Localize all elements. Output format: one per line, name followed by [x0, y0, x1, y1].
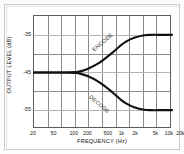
x-tick-label: 5k	[153, 130, 158, 136]
x-tick-label: 1k	[119, 130, 124, 136]
x-tick-label: 2k	[132, 130, 137, 136]
x-tick-label: 20	[30, 130, 36, 136]
x-tick-label: 100	[69, 130, 78, 136]
y-axis-ticks: -35 -45 -55	[14, 0, 31, 154]
y-axis-title: OUTPUT LEVEL (dB)	[6, 29, 12, 101]
x-tick-label: 20k	[176, 130, 184, 136]
x-tick-label: 500	[103, 130, 112, 136]
y-tick-label: -35	[23, 31, 31, 37]
y-tick-label: -45	[23, 69, 31, 75]
x-tick-label: 10k	[165, 130, 173, 136]
x-axis-title: FREQUENCY (Hz)	[33, 138, 171, 144]
plot-area: ENCODE DECODE	[33, 15, 171, 128]
chart-screenshot: -35 -45 -55 OUTPUT LEVEL (dB) ENCODE DEC…	[0, 0, 184, 154]
x-tick-label: 200	[83, 130, 92, 136]
x-tick-label: 50	[51, 130, 57, 136]
y-tick-label: -55	[23, 106, 31, 112]
curve-canvas	[34, 16, 172, 129]
